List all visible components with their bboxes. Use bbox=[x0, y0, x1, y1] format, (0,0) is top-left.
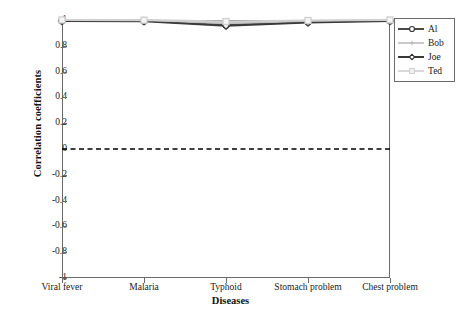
y-tick-label: -0.2 bbox=[7, 170, 67, 180]
y-tick-mark bbox=[62, 252, 67, 253]
y-tick-label: 0.8 bbox=[7, 41, 67, 51]
y-tick-mark bbox=[62, 226, 67, 227]
y-tick-mark bbox=[62, 97, 67, 98]
y-tick-label: -0.6 bbox=[7, 221, 67, 231]
legend-swatch-joe bbox=[397, 50, 425, 64]
plus-marker-icon bbox=[408, 39, 416, 47]
x-tick-label: Typhoid bbox=[210, 282, 242, 293]
y-tick-mark bbox=[62, 20, 67, 21]
y-tick-mark bbox=[62, 72, 67, 73]
legend-label-bob: Bob bbox=[425, 38, 444, 48]
legend-item[interactable]: Al bbox=[397, 22, 452, 36]
legend: Al Bob Joe bbox=[394, 18, 455, 82]
y-tick-mark bbox=[62, 149, 67, 150]
y-tick-mark bbox=[62, 123, 67, 124]
legend-label-ted: Ted bbox=[425, 66, 442, 76]
legend-label-joe: Joe bbox=[425, 52, 441, 62]
diamond-marker-icon bbox=[408, 53, 416, 61]
x-tick-label: Viral fever bbox=[42, 282, 83, 293]
correlation-coefficients-chart: Correlation coefficients 10.80.60.40.20-… bbox=[0, 0, 461, 314]
y-tick-label: -0.8 bbox=[7, 247, 67, 257]
x-tick-label: Stomach problem bbox=[274, 282, 341, 293]
x-tick-label: Malaria bbox=[129, 282, 159, 293]
y-tick-mark bbox=[62, 46, 67, 47]
plot-area bbox=[62, 20, 390, 278]
y-tick-label: 0 bbox=[7, 144, 67, 154]
y-tick-label: 0.2 bbox=[7, 118, 67, 128]
y-tick-mark bbox=[62, 201, 67, 202]
y-tick-label: 0.6 bbox=[7, 67, 67, 77]
y-tick-label: 0.4 bbox=[7, 92, 67, 102]
legend-swatch-al bbox=[397, 22, 425, 36]
square-marker-icon bbox=[408, 67, 416, 75]
legend-item[interactable]: Ted bbox=[397, 64, 452, 78]
legend-item[interactable]: Bob bbox=[397, 36, 452, 50]
x-axis-title: Diseases bbox=[0, 295, 461, 306]
y-tick-label: -0.4 bbox=[7, 196, 67, 206]
y-tick-label: 1 bbox=[7, 15, 67, 25]
legend-item[interactable]: Joe bbox=[397, 50, 452, 64]
legend-swatch-bob bbox=[397, 36, 425, 50]
legend-swatch-ted bbox=[397, 64, 425, 78]
y-tick-mark bbox=[62, 175, 67, 176]
circle-marker-icon bbox=[408, 25, 416, 33]
legend-label-al: Al bbox=[425, 24, 438, 34]
x-tick-label: Chest problem bbox=[362, 282, 418, 293]
